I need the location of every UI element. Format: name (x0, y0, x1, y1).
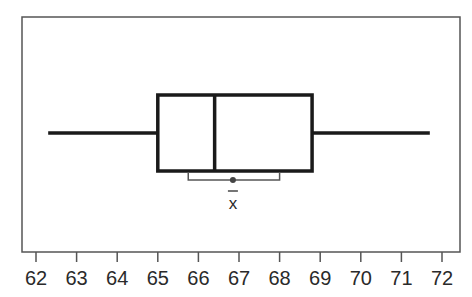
x-tick-label: 67 (228, 267, 250, 289)
x-axis: 6263646566676869707172 (25, 252, 453, 289)
box (158, 95, 312, 171)
x-tick-label: 70 (350, 267, 372, 289)
x-tick-label: 72 (431, 267, 453, 289)
x-tick-label: 65 (147, 267, 169, 289)
mean-label: x (229, 194, 238, 213)
mean-dot (230, 177, 236, 183)
interquartile-box (158, 95, 312, 171)
x-tick-label: 64 (106, 267, 128, 289)
box-plot-chart: x 6263646566676869707172 (0, 0, 472, 297)
x-tick-label: 71 (390, 267, 412, 289)
x-tick-label: 66 (187, 267, 209, 289)
x-tick-label: 69 (309, 267, 331, 289)
x-tick-label: 68 (268, 267, 290, 289)
x-tick-label: 63 (65, 267, 87, 289)
mean-interval: x (188, 172, 279, 213)
x-tick-label: 62 (25, 267, 47, 289)
